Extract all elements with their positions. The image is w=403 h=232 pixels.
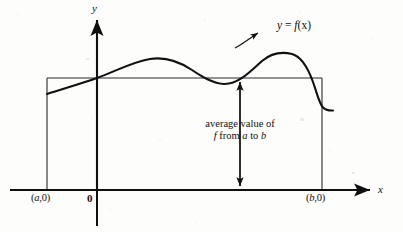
- curve-equation-label: y = f(x): [277, 19, 311, 32]
- annotation-from: from: [217, 130, 243, 141]
- curve-label-equals: =: [282, 19, 294, 31]
- left-endpoint-label: (a,0): [31, 192, 50, 204]
- function-curve: [47, 53, 333, 111]
- origin-label: 0: [87, 192, 93, 204]
- annotation-b: b: [261, 130, 266, 141]
- annotation-line-1: average value of: [180, 118, 300, 130]
- annotation-to: to: [248, 130, 261, 141]
- y-axis-label: y: [92, 2, 97, 14]
- x-axis-label: x: [378, 183, 383, 195]
- right-endpoint-zero: ,0): [314, 192, 325, 203]
- curve-label-arg: (x): [298, 19, 311, 31]
- curve-label-leader-arrow: [235, 33, 258, 48]
- left-endpoint-zero: ,0): [39, 192, 50, 203]
- average-value-annotation: average value of f from a to b: [180, 118, 300, 142]
- right-endpoint-label: (b,0): [306, 192, 325, 204]
- annotation-line-2: f from a to b: [180, 130, 300, 142]
- diagram-canvas: [0, 0, 403, 232]
- average-value-figure: y x 0 (a,0) (b,0) y = f(x) average value…: [0, 0, 403, 232]
